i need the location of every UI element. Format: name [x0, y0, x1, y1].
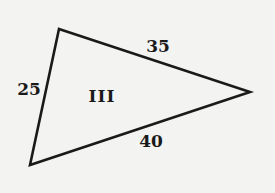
triangle-shape — [0, 0, 275, 193]
side-label-upper: 35 — [146, 38, 170, 55]
triangle-diagram: 25 35 40 III — [0, 0, 275, 193]
side-label-left: 25 — [17, 81, 41, 98]
side-label-lower: 40 — [139, 133, 163, 150]
region-label: III — [89, 88, 116, 105]
